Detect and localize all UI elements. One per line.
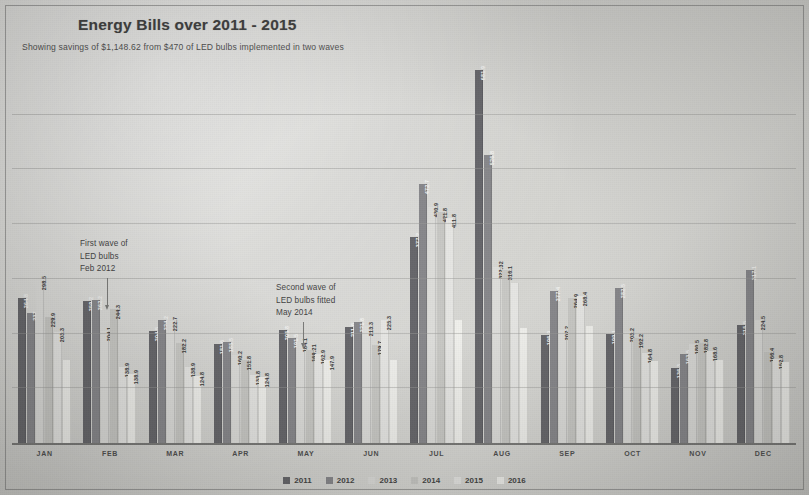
- x-tick-jan: JAN: [12, 450, 77, 466]
- bar-jun-2014: 179.7: [372, 345, 380, 443]
- bar-aug-2014: 316.1: [502, 270, 510, 443]
- legend-item-2015[interactable]: 2015: [454, 476, 483, 485]
- bar-dec-2016: [782, 362, 790, 443]
- bar-jul-2011: 377.2: [410, 237, 418, 443]
- bar-mar-2014: 182.2: [176, 343, 184, 443]
- bar-may-2014: 169.21: [306, 350, 314, 443]
- bar-jul-2014: 421.8: [437, 212, 445, 443]
- bar-oct-2011: 199.1: [606, 334, 614, 443]
- bar-group-aug: 681.9526.8322.32316.1: [469, 60, 534, 443]
- bar-group-apr: 181.6185.5160.2151.8133.8124.8: [208, 60, 273, 443]
- bar-value-label: 151.8: [245, 356, 253, 371]
- gridline: [12, 333, 796, 334]
- x-axis-line: [12, 443, 796, 445]
- annotation-first-wave: First wave of LED bulbs Feb 2012: [80, 238, 128, 276]
- bar-mar-2013: 222.7: [167, 321, 175, 443]
- bar-value-label: 681.9: [479, 66, 487, 81]
- bar-group-mar: 204.5224.2222.7182.2138.9124.8: [143, 60, 208, 443]
- bar-jul-2013: 430.9: [428, 207, 436, 443]
- bar-group-dec: 215.5317.1224.5166.4152.8: [731, 60, 796, 443]
- bar-dec-2011: 215.5: [737, 325, 745, 443]
- bar-jun-2012: 221.8: [354, 322, 362, 443]
- bar-dec-2013: 224.5: [755, 320, 763, 443]
- bar-group-jun: 211.6221.8213.3179.7225.3: [339, 60, 404, 443]
- bar-value-label: 185.5: [227, 337, 235, 352]
- bar-value-label: 264.8: [22, 294, 30, 309]
- bar-nov-2011: 136.3: [671, 368, 679, 443]
- bar-nov-2013: 180.5: [689, 344, 697, 443]
- legend-label: 2011: [294, 476, 311, 485]
- bar-aug-2015: [511, 283, 519, 443]
- x-tick-dec: DEC: [731, 450, 796, 466]
- bar-mar-2012: 224.2: [158, 320, 166, 443]
- annotation-second-wave-line3: May 2014: [276, 307, 336, 320]
- gridline: [12, 278, 796, 279]
- x-tick-sep: SEP: [535, 450, 600, 466]
- bar-value-label: 282.5: [619, 284, 627, 299]
- bar-value-label: 147.9: [328, 356, 336, 371]
- bar-value-label: 277.4: [554, 287, 562, 302]
- bar-nov-2015: 168.6: [707, 351, 715, 443]
- x-tick-jul: JUL: [404, 450, 469, 466]
- legend-swatch-icon: [283, 477, 290, 484]
- gridline: [12, 387, 796, 388]
- gridline: [12, 168, 796, 169]
- bar-oct-2016: [651, 361, 659, 443]
- legend-swatch-icon: [454, 477, 461, 484]
- bar-may-2013: 184.1: [297, 342, 305, 443]
- legend-item-2012[interactable]: 2012: [326, 476, 355, 485]
- bar-aug-2012: 526.8: [484, 155, 492, 443]
- bar-group-jan: 264.8237298.5229.9203.3: [12, 60, 77, 443]
- annotation-first-wave-line2: LED bulbs: [80, 251, 128, 264]
- bar-group-may: 205.8191.5184.1169.21162.9147.9: [273, 60, 338, 443]
- x-tick-oct: OCT: [600, 450, 665, 466]
- bar-may-2015: 162.9: [315, 354, 323, 443]
- gridline: [12, 114, 796, 115]
- legend-item-2013[interactable]: 2013: [368, 476, 397, 485]
- bar-feb-2016: 138.9: [128, 374, 136, 443]
- bar-group-oct: 199.1282.5203.2192.2164.8: [600, 60, 665, 443]
- bar-value-label: 225.3: [385, 315, 393, 330]
- bar-nov-2016: [716, 360, 724, 443]
- bar-aug-2013: 322.32: [493, 267, 501, 443]
- annotation-second-wave: Second wave of LED bulbs fitted May 2014: [276, 282, 336, 320]
- bar-sep-2011: 196.9: [541, 335, 549, 443]
- bar-apr-2011: 181.6: [214, 344, 222, 443]
- legend-label: 2014: [422, 476, 440, 485]
- x-tick-may: MAY: [273, 450, 338, 466]
- bar-jul-2015: 411.8: [446, 218, 454, 443]
- bar-apr-2014: 151.8: [241, 360, 249, 443]
- bar-apr-2012: 185.5: [223, 342, 231, 443]
- bar-feb-2015: 138.9: [119, 367, 127, 443]
- legend-item-2014[interactable]: 2014: [411, 476, 440, 485]
- bar-dec-2012: 317.1: [746, 270, 754, 443]
- bar-value-label: 229.9: [49, 313, 57, 328]
- bar-value-label: 213.3: [367, 322, 375, 337]
- bar-group-sep: 196.9277.4207.2264.9268.4: [535, 60, 600, 443]
- bar-value-label: 472.7: [423, 180, 431, 195]
- x-tick-aug: AUG: [469, 450, 534, 466]
- bar-sep-2014: 264.9: [568, 298, 576, 443]
- bar-jan-2011: 264.8: [18, 298, 26, 443]
- legend-label: 2016: [508, 476, 526, 485]
- legend-item-2011[interactable]: 2011: [283, 476, 311, 485]
- bar-sep-2012: 277.4: [550, 291, 558, 443]
- bar-nov-2012: 163.5: [680, 354, 688, 443]
- bar-jan-2016: [63, 360, 71, 443]
- bar-oct-2015: 164.8: [642, 353, 650, 443]
- annotation-second-wave-line1: Second wave of: [276, 282, 336, 295]
- bar-mar-2016: 124.8: [194, 376, 202, 443]
- bar-dec-2014: 166.4: [764, 352, 772, 443]
- bar-value-label: 203.3: [58, 328, 66, 343]
- bar-oct-2014: 192.2: [633, 338, 641, 443]
- bar-oct-2012: 282.5: [615, 288, 623, 443]
- bar-may-2016: 147.9: [324, 360, 332, 443]
- legend-item-2016[interactable]: 2016: [497, 476, 526, 485]
- gridline: [12, 223, 796, 224]
- legend-label: 2013: [379, 476, 397, 485]
- bar-sep-2016: [586, 326, 594, 443]
- bar-value-label: 222.7: [171, 317, 179, 332]
- bar-may-2012: 191.5: [288, 338, 296, 443]
- bar-group-jul: 377.2472.7430.9421.8411.8: [404, 60, 469, 443]
- bar-value-label: 182.2: [180, 339, 188, 354]
